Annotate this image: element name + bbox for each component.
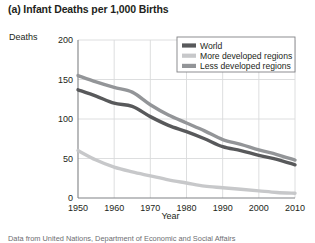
chart-legend: WorldMore developed regionsLess develope… <box>177 37 295 72</box>
x-axis-title-text: Year <box>161 211 179 221</box>
x-axis-title: Year <box>0 211 315 221</box>
legend-label: Less developed regions <box>200 61 291 71</box>
svg-text:0: 0 <box>68 193 73 203</box>
legend-label: World <box>200 41 223 51</box>
svg-text:150: 150 <box>58 75 73 85</box>
y-tick-labels: 050100150200 <box>58 35 73 203</box>
svg-text:200: 200 <box>58 35 73 45</box>
svg-text:50: 50 <box>63 154 73 164</box>
svg-text:100: 100 <box>58 114 73 124</box>
legend-label: More developed regions <box>200 51 292 61</box>
source-note: Data from United Nations, Department of … <box>8 234 235 243</box>
